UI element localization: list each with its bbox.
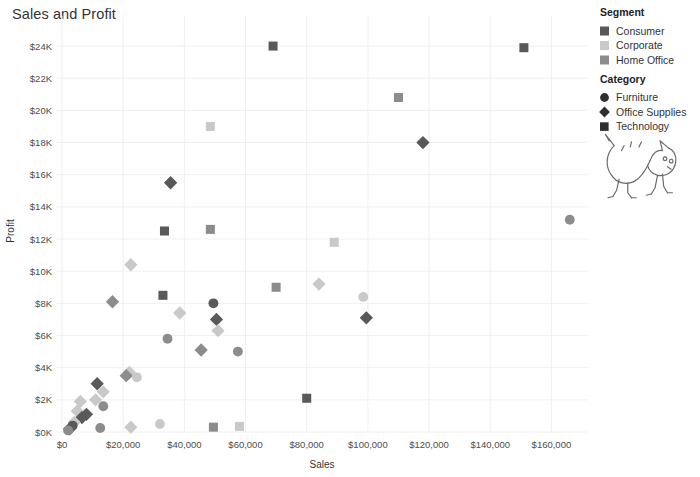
data-point[interactable]	[98, 401, 108, 411]
y-tick-label: $6K	[35, 330, 53, 341]
y-tick-label: $10K	[30, 266, 53, 277]
x-axis-ticks: $0$20,000$40,000$60,000$80,000$100,000$1…	[57, 439, 572, 450]
y-tick-label: $2K	[35, 394, 53, 405]
data-point[interactable]	[208, 298, 218, 308]
data-point[interactable]	[124, 258, 137, 271]
legend-item-category[interactable]: Furniture	[600, 91, 658, 103]
data-point[interactable]	[233, 347, 243, 357]
x-tick-label: $160,000	[532, 439, 572, 450]
color-swatch-icon	[600, 56, 609, 65]
data-point[interactable]	[206, 122, 215, 131]
x-tick-label: $60,000	[228, 439, 262, 450]
data-point[interactable]	[160, 226, 169, 235]
y-tick-label: $4K	[35, 362, 53, 373]
data-point[interactable]	[330, 238, 339, 247]
y-tick-label: $16K	[30, 169, 53, 180]
data-point[interactable]	[106, 295, 119, 308]
legend-item-label: Technology	[616, 120, 670, 132]
data-point[interactable]	[158, 291, 167, 300]
legend-item-label: Home Office	[616, 54, 674, 66]
scatter-plot: $0$20,000$40,000$60,000$80,000$100,000$1…	[0, 0, 700, 477]
circle-marker-icon	[600, 93, 609, 102]
legend-item-label: Corporate	[616, 39, 663, 51]
y-axis-ticks: $0K$2K$4K$6K$8K$10K$12K$14K$16K$18K$20K$…	[30, 41, 53, 438]
y-tick-label: $12K	[30, 234, 53, 245]
data-point[interactable]	[394, 93, 403, 102]
data-points	[63, 42, 575, 436]
data-point[interactable]	[206, 225, 215, 234]
x-tick-label: $100,000	[348, 439, 388, 450]
cat-drawing	[605, 134, 675, 197]
data-point[interactable]	[360, 311, 373, 324]
x-tick-label: $120,000	[409, 439, 449, 450]
gridlines	[56, 16, 588, 432]
x-tick-label: $40,000	[167, 439, 201, 450]
legend-item-label: Office Supplies	[616, 106, 686, 118]
y-tick-label: $20K	[30, 105, 53, 116]
data-point[interactable]	[269, 42, 278, 51]
data-point[interactable]	[132, 372, 142, 382]
legend-item-label: Consumer	[616, 25, 665, 37]
color-swatch-icon	[600, 41, 609, 50]
data-point[interactable]	[565, 215, 575, 225]
legend-item-segment[interactable]: Consumer	[600, 25, 665, 37]
data-point[interactable]	[210, 313, 223, 326]
x-tick-label: $80,000	[290, 439, 324, 450]
y-tick-label: $8K	[35, 298, 53, 309]
y-tick-label: $0K	[35, 427, 53, 438]
data-point[interactable]	[519, 43, 528, 52]
legend-title-category: Category	[600, 73, 646, 85]
data-point[interactable]	[164, 176, 177, 189]
legend-item-label: Furniture	[616, 91, 658, 103]
data-point[interactable]	[95, 423, 105, 433]
legend-title-segment: Segment	[600, 6, 645, 18]
legend-item-category[interactable]: Technology	[600, 120, 670, 132]
data-point[interactable]	[235, 422, 244, 431]
data-point[interactable]	[302, 394, 311, 403]
data-point[interactable]	[209, 423, 218, 432]
legend-item-segment[interactable]: Corporate	[600, 39, 663, 51]
square-marker-icon	[600, 122, 609, 131]
data-point[interactable]	[416, 136, 429, 149]
y-tick-label: $22K	[30, 73, 53, 84]
x-tick-label: $140,000	[470, 439, 510, 450]
x-tick-label: $20,000	[106, 439, 140, 450]
legend: SegmentConsumerCorporateHome OfficeCateg…	[599, 6, 686, 132]
data-point[interactable]	[63, 425, 73, 435]
data-point[interactable]	[272, 283, 281, 292]
y-axis-title: Profit	[5, 219, 16, 243]
y-tick-label: $24K	[30, 41, 53, 52]
x-axis-title: Sales	[309, 459, 334, 470]
legend-item-category[interactable]: Office Supplies	[599, 106, 686, 118]
data-point[interactable]	[195, 343, 208, 356]
x-tick-label: $0	[57, 439, 68, 450]
data-point[interactable]	[312, 277, 325, 290]
legend-item-segment[interactable]: Home Office	[600, 54, 674, 66]
y-tick-label: $18K	[30, 137, 53, 148]
y-tick-label: $14K	[30, 201, 53, 212]
data-point[interactable]	[358, 292, 368, 302]
data-point[interactable]	[163, 334, 173, 344]
diamond-marker-icon	[599, 107, 610, 118]
color-swatch-icon	[600, 27, 609, 36]
data-point[interactable]	[155, 419, 165, 429]
